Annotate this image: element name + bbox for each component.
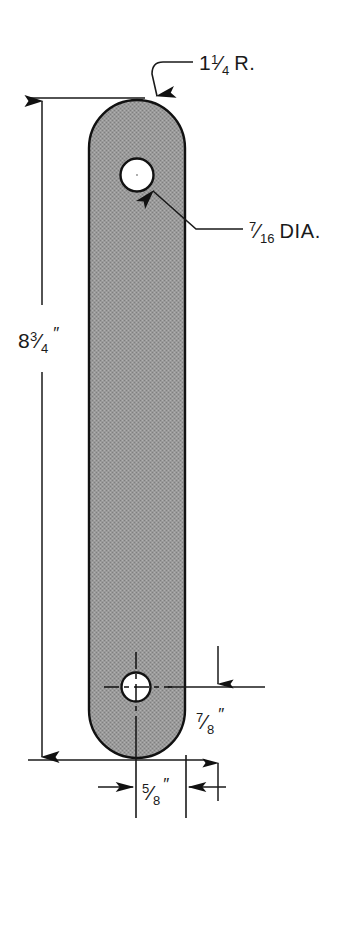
diameter-suffix: DIA.	[280, 220, 321, 242]
flat-bar-part	[89, 100, 185, 758]
drawing-sheet: 11⁄4R. 7⁄16DIA. 83⁄4″	[0, 0, 343, 929]
part-outline	[89, 100, 185, 758]
radius-whole: 1	[199, 51, 211, 74]
upper-hole-center-dot	[136, 174, 138, 176]
radius-suffix: R.	[234, 52, 255, 74]
hole-to-edge-frac-numerator: 5	[142, 781, 149, 796]
hole-to-end-inch-mark: ″	[218, 705, 224, 724]
upper-hole	[121, 159, 154, 192]
technical-drawing-canvas: 11⁄4R. 7⁄16DIA. 83⁄4″	[0, 0, 343, 929]
hole-to-end-frac-numerator: 7	[196, 710, 203, 725]
radius-frac-denominator: 4	[222, 63, 229, 78]
hole-diameter-label: 7⁄16DIA.	[249, 219, 321, 246]
length-frac-numerator: 3	[30, 329, 37, 344]
hole-to-edge-inch-mark: ″	[163, 775, 169, 794]
hole-to-end-frac-denominator: 8	[207, 722, 214, 737]
diameter-frac-denominator: 16	[260, 231, 274, 246]
diameter-frac-numerator: 7	[249, 219, 256, 234]
radius-frac-numerator: 1	[211, 52, 218, 67]
hole-to-edge-frac-denominator: 8	[153, 793, 160, 808]
length-inch-mark: ″	[53, 324, 59, 343]
length-frac-denominator: 4	[41, 341, 48, 356]
length-whole: 8	[18, 329, 30, 352]
